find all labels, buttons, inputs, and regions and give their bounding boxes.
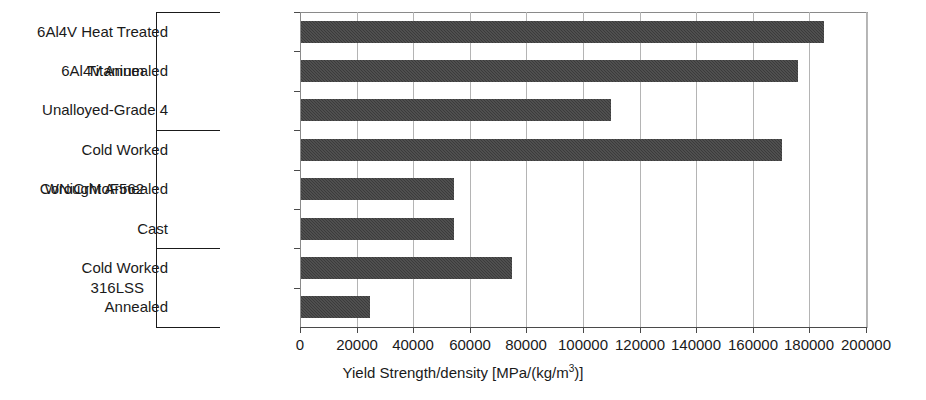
bar xyxy=(301,139,782,161)
x-tick-mark xyxy=(696,327,697,333)
group-bracket-spine xyxy=(156,130,157,248)
category-tick xyxy=(294,209,300,210)
group-label: CoNiCrMoF562 xyxy=(40,181,144,197)
group-bracket-arm xyxy=(156,130,220,131)
x-tick-mark xyxy=(809,327,810,333)
x-tick-mark xyxy=(526,327,527,333)
bar xyxy=(301,296,370,318)
x-tick-label: 160000 xyxy=(728,336,778,354)
bar xyxy=(301,257,512,279)
category-tick xyxy=(294,51,300,52)
x-tick-label: 80000 xyxy=(505,336,547,354)
group-bracket-spine xyxy=(156,12,157,130)
category-label: Cold Worked xyxy=(0,142,168,158)
x-tick-label: 40000 xyxy=(392,336,434,354)
x-tick-mark xyxy=(413,327,414,333)
x-tick-label: 20000 xyxy=(336,336,378,354)
category-tick xyxy=(294,12,300,13)
bar xyxy=(301,99,611,121)
gridline xyxy=(866,12,867,327)
bar xyxy=(301,178,454,200)
x-tick-mark xyxy=(470,327,471,333)
x-axis-title-tail: )] xyxy=(574,364,583,381)
category-tick xyxy=(294,170,300,171)
bar xyxy=(301,21,824,43)
x-tick-mark xyxy=(357,327,358,333)
x-tick-mark xyxy=(640,327,641,333)
category-tick xyxy=(294,248,300,249)
x-tick-label: 120000 xyxy=(615,336,665,354)
category-tick xyxy=(294,288,300,289)
category-label: Unalloyed-Grade 4 xyxy=(0,102,168,118)
group-bracket-arm xyxy=(156,248,220,249)
x-tick-mark xyxy=(866,327,867,333)
group-label: 316LSS xyxy=(91,280,144,296)
category-label: 6Al4V Heat Treated xyxy=(0,24,168,40)
x-tick-mark xyxy=(300,327,301,333)
x-tick-label: 200000 xyxy=(841,336,891,354)
gridline xyxy=(809,12,810,327)
yield-strength-density-bar-chart: 0200004000060000800001000001200001400001… xyxy=(0,0,926,400)
x-axis-title-main: Yield Strength/density [MPa/(kg/m xyxy=(343,364,569,381)
x-tick-label: 100000 xyxy=(558,336,608,354)
category-label: Annealed xyxy=(0,299,168,315)
x-tick-label: 60000 xyxy=(449,336,491,354)
x-tick-mark xyxy=(583,327,584,333)
x-tick-label: 140000 xyxy=(671,336,721,354)
x-tick-label: 180000 xyxy=(784,336,834,354)
bar xyxy=(301,218,454,240)
category-tick xyxy=(294,130,300,131)
x-tick-mark xyxy=(753,327,754,333)
group-bracket-spine xyxy=(156,248,157,327)
group-bracket-arm xyxy=(156,327,220,328)
group-label: Titanium xyxy=(87,63,144,79)
category-label: Cold Worked xyxy=(0,260,168,276)
category-tick xyxy=(294,91,300,92)
bar xyxy=(301,60,798,82)
group-bracket-arm xyxy=(156,12,220,13)
x-tick-label: 0 xyxy=(296,336,304,354)
x-axis-title: Yield Strength/density [MPa/(kg/m3)] xyxy=(0,364,926,382)
category-label: Cast xyxy=(0,221,168,237)
